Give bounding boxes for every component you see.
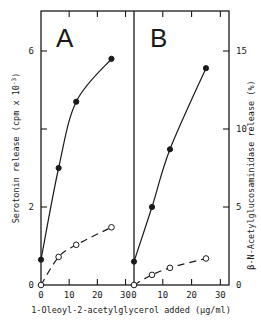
x-tick-label: 30: [120, 290, 131, 300]
open-data-point: [167, 265, 173, 271]
y-left-tick-label: 0: [29, 280, 34, 290]
y-axis-left-title: Serotonin release (cpm x 10-3): [10, 73, 21, 224]
y-left-tick-label: 6: [29, 46, 34, 56]
chart: A B 01020300260102030051015 Serotonin re…: [0, 0, 261, 324]
x-tick-label: 10: [157, 290, 168, 300]
y-right-tick-label: 15: [236, 46, 247, 56]
filled-data-point: [74, 99, 79, 104]
filled-data-point: [149, 204, 154, 209]
dashed-curve: [134, 258, 206, 285]
open-data-point: [109, 224, 115, 230]
y-right-tick-label: 0: [236, 280, 241, 290]
filled-data-point: [131, 259, 136, 264]
filled-data-point: [56, 165, 61, 170]
y-axis-right-title: β-N-Acetylglucosaminidase release (%): [246, 80, 256, 269]
filled-data-point: [167, 147, 172, 152]
x-tick-label: 20: [92, 290, 103, 300]
dashed-curve: [41, 227, 111, 285]
open-data-point: [38, 282, 44, 288]
panel-a-label: A: [56, 23, 74, 53]
open-data-point: [203, 256, 209, 262]
open-data-point: [131, 282, 137, 288]
x-tick-label: 0: [131, 290, 136, 300]
filled-data-point: [109, 56, 114, 61]
tick-labels: 01020300260102030051015: [29, 46, 247, 300]
open-data-point: [56, 254, 62, 260]
y-right-tick-label: 5: [236, 202, 241, 212]
y-left-tick-label: 2: [29, 202, 34, 212]
open-data-point: [73, 242, 79, 248]
x-tick-label: 20: [186, 290, 197, 300]
open-data-point: [149, 272, 155, 278]
data-series: [38, 56, 209, 288]
x-tick-label: 10: [64, 290, 75, 300]
x-tick-label: 30: [215, 290, 226, 300]
filled-data-point: [38, 257, 43, 262]
x-axis-title: 1-Oleoyl-2-acetylglycerol added (µg/ml): [31, 305, 231, 315]
panel-b-label: B: [150, 23, 167, 53]
solid-curve: [134, 68, 206, 261]
x-tick-label: 0: [38, 290, 43, 300]
solid-curve: [41, 59, 111, 260]
filled-data-point: [203, 66, 208, 71]
